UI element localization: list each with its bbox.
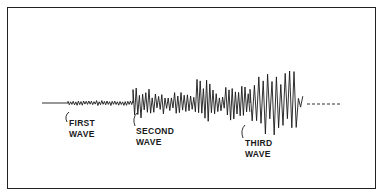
third-wave-label: THIRD WAVE [245,138,272,160]
third-wave-trace [250,71,303,135]
first-wave-trace [68,101,133,106]
label-line: WAVE [245,149,272,160]
label-line: SECOND [136,126,174,137]
first-wave-label: FIRST WAVE [69,118,95,140]
label-line: WAVE [136,137,174,148]
label-line: FIRST [69,118,95,129]
label-line: WAVE [69,129,95,140]
seismogram-trace [0,0,381,195]
second-wave-label: SECOND WAVE [136,126,174,148]
second-wave-trace [133,79,250,121]
label-line: THIRD [245,138,272,149]
third-wave-arrow [242,125,245,138]
